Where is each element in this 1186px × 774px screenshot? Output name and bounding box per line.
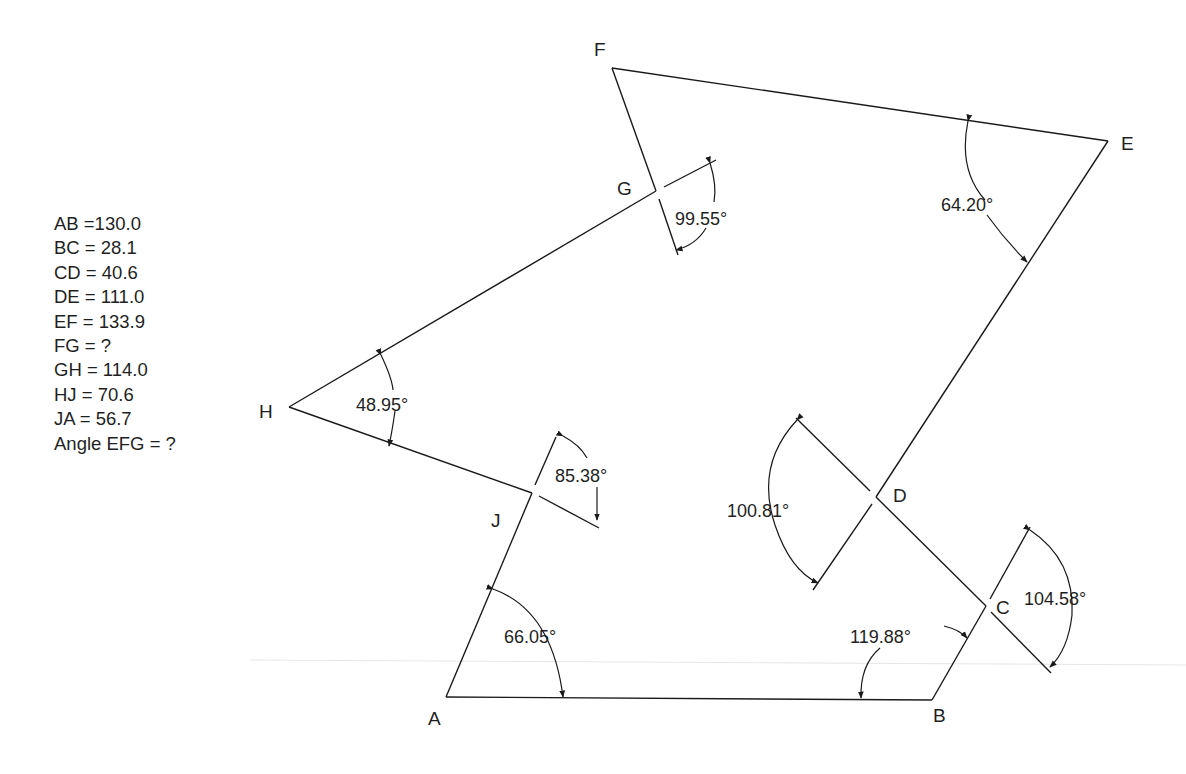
vertex-label-a: A [428,708,441,729]
side-ef [612,68,1108,141]
extension-ed [813,504,872,590]
angle-label-b: 119.88° [850,627,911,647]
side-hj [289,407,532,493]
vertex-label-j: J [491,510,501,531]
angle-arc-e [965,121,1027,262]
traverse-diagram: A B C D E F G H J 66.05° 119.88° 104.58°… [0,0,1186,774]
vertex-label-g: G [617,178,632,199]
side-fg [612,68,656,191]
side-cd [876,497,986,606]
extension-hg [664,160,716,187]
angle-arc-b-upper [944,626,967,638]
extension-hj [539,496,599,528]
side-ab [446,697,932,700]
vertex-label-d: D [893,485,907,506]
angle-label-e: 64.20° [941,195,993,215]
side-ja [446,493,532,697]
vertex-label-f: F [594,39,606,60]
side-bc [932,606,986,700]
vertex-label-e: E [1121,133,1134,154]
extension-cd [796,418,870,491]
vertex-label-b: B [933,705,946,726]
angle-arc-b [861,648,880,698]
vertex-label-h: H [259,401,273,422]
extension-aj [535,437,556,485]
side-gh [289,191,656,407]
scan-artifact-line [250,660,1186,665]
vertex-label-c: C [996,597,1010,618]
angle-label-a: 66.05° [504,627,556,647]
angle-label-g: 99.55° [675,209,727,229]
angle-label-j: 85.38° [555,466,607,486]
angle-label-d: 100.81° [727,501,789,521]
angle-arc-g [676,163,715,250]
angle-label-c: 104.58° [1024,589,1086,609]
angle-label-h: 48.95° [356,395,408,415]
